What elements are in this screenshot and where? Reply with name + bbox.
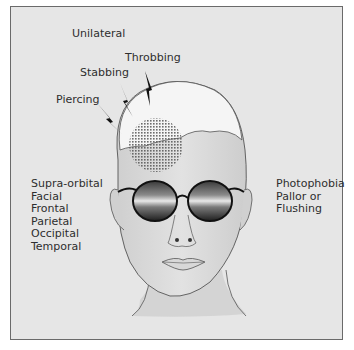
label-photophobia: Photophobia (276, 178, 345, 191)
label-supra-orbital: Supra-orbital (31, 178, 103, 191)
label-occipital: Occipital (31, 228, 103, 241)
location-labels-list: Supra-orbital Facial Frontal Parietal Oc… (31, 178, 103, 253)
label-stabbing: Stabbing (80, 67, 129, 80)
symptom-labels-list: Photophobia Pallor or Flushing (276, 178, 345, 216)
label-throbbing: Throbbing (125, 52, 181, 65)
pain-area-pattern (129, 118, 183, 172)
label-flushing: Flushing (276, 203, 345, 216)
label-unilateral: Unilateral (72, 28, 125, 41)
label-temporal: Temporal (31, 241, 103, 254)
label-piercing: Piercing (56, 94, 100, 107)
label-frontal: Frontal (31, 203, 103, 216)
